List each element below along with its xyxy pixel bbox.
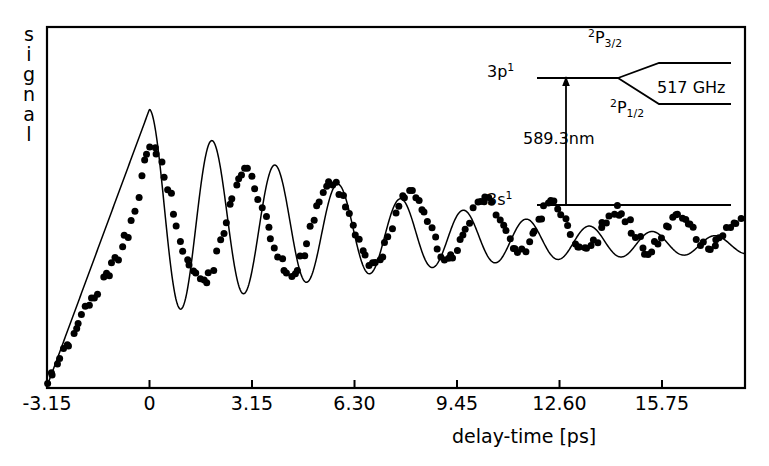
data-point [420,209,427,216]
data-point [700,239,707,246]
data-point [136,194,143,201]
data-point [648,248,655,255]
data-point [665,224,672,231]
data-point-group [44,143,745,387]
y-axis-label-letter: n [16,84,42,104]
data-point [131,208,138,215]
x-tick-label: 0 [105,392,195,414]
data-point [115,256,122,263]
data-point [301,252,308,259]
data-point [158,158,165,165]
quantum-beat-figure: signal -3.15 0 3.15 6.30 9.45 12.60 15.7… [0,0,769,466]
data-point [248,173,255,180]
data-point [466,220,473,227]
fine-structure-upper-branch [618,63,731,78]
x-axis-ticks [47,380,662,388]
data-point [693,236,700,243]
data-point [395,203,402,210]
data-point [279,255,286,262]
data-point [186,261,193,268]
data-point [416,197,423,204]
data-point [49,371,56,378]
term-symbol-p32-label: 2P3/2 [588,28,622,47]
data-point [153,150,160,157]
data-point [594,239,601,246]
data-point [356,236,363,243]
data-point [362,252,369,259]
data-point [342,203,349,210]
data-point [78,311,85,318]
data-point [56,355,63,362]
data-point [567,231,574,238]
splitting-label: 517 GHz [657,78,725,97]
transition-wavelength-label: 589.3nm [523,129,595,148]
data-point [320,189,327,196]
data-point [106,272,113,279]
data-point [432,234,439,241]
data-point [502,227,509,234]
data-point [738,215,745,222]
data-point [627,216,634,223]
data-point [429,224,436,231]
data-point [161,174,168,181]
data-point [507,235,514,242]
data-point [340,192,347,199]
data-point [221,230,228,237]
data-point [294,267,301,274]
data-point [526,238,533,245]
data-point [213,247,220,254]
data-point [346,210,353,217]
data-point [564,222,571,229]
data-point [65,343,72,350]
data-point [393,209,400,216]
x-tick-label: 12.60 [515,392,605,414]
data-point [712,242,719,249]
data-point [238,172,245,179]
data-point [259,204,266,211]
data-point [143,151,150,158]
data-point [125,234,132,241]
data-point [94,291,101,298]
data-point [86,302,93,309]
excited-state-label: 3p1 [487,62,514,81]
data-point [732,220,739,227]
data-point [409,187,416,194]
data-point [173,222,180,229]
data-point [470,204,477,211]
data-point [170,211,177,218]
data-point [128,217,135,224]
data-point [522,248,529,255]
data-point [639,245,646,252]
data-point [462,226,469,233]
data-point [531,228,538,235]
data-point [251,185,258,192]
data-point [658,235,665,242]
data-point [192,270,199,277]
data-point [307,223,314,230]
data-point [228,195,235,202]
data-point [654,241,661,248]
y-axis-label-letter: s [16,24,42,44]
data-point [316,198,323,205]
data-point [550,198,557,205]
data-point [424,218,431,225]
x-axis-title: delay-time [ps] [452,425,596,447]
data-point [434,245,441,252]
data-point [179,248,186,255]
data-point [618,210,625,217]
data-point [379,254,386,261]
data-point [44,380,51,387]
data-point [217,236,224,243]
x-tick-label: 3.15 [207,392,297,414]
y-axis-label-letter: i [16,44,42,64]
data-point [233,182,240,189]
data-point [449,254,456,261]
data-point [719,232,726,239]
ground-state-label: 3s1 [487,190,512,209]
data-point [210,267,217,274]
data-point [152,144,159,151]
data-point [267,235,274,242]
y-axis-label: signal [16,24,42,144]
data-point [203,279,210,286]
data-point [265,224,272,231]
